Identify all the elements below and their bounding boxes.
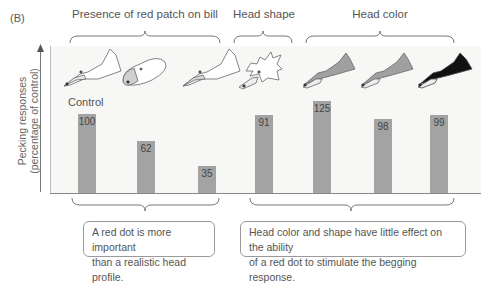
- bar-black-head: 99: [430, 115, 448, 193]
- brace-bottom-right: [250, 198, 454, 211]
- bar-value: 62: [137, 141, 155, 154]
- brace-bottom-left: [72, 198, 219, 211]
- bar-value: 99: [430, 115, 448, 128]
- callout-head-color-shape: Head color and shape have little effect …: [240, 221, 466, 257]
- control-label: Control: [68, 96, 103, 108]
- bar-control: 100: [78, 114, 96, 193]
- head-icon-no-dot: [183, 49, 240, 86]
- head-icon-gray-variant: [361, 53, 413, 88]
- callout-red-dot-importance: A red dot is more important than a reali…: [83, 221, 215, 257]
- head-icon-black: [418, 53, 472, 88]
- callout-line2: of a red dot to stimulate the begging re…: [249, 255, 457, 285]
- x-axis-baseline: [50, 193, 481, 194]
- bar-irregular-shape: 91: [255, 115, 273, 193]
- bar-gray-head: 125: [313, 101, 331, 193]
- head-icon-oval: [123, 58, 166, 85]
- bar-value: 91: [255, 115, 273, 128]
- bar-value: 98: [374, 119, 392, 132]
- bar-value: 125: [313, 101, 331, 114]
- bar-value: 35: [198, 166, 216, 179]
- callout-line2: than a realistic head profile.: [92, 255, 206, 285]
- head-icon-gray: [303, 53, 355, 88]
- stimulus-heads: [0, 0, 481, 100]
- head-icon-control: [64, 49, 121, 86]
- bar-value: 100: [78, 114, 96, 127]
- callout-line1: Head color and shape have little effect …: [249, 225, 457, 255]
- bar-gray-head-variant: 98: [374, 119, 392, 193]
- callout-line1: A red dot is more important: [92, 225, 206, 255]
- head-icon-irregular: [239, 52, 282, 89]
- bar-oval-head: 62: [137, 141, 155, 193]
- bar-no-dot: 35: [198, 166, 216, 193]
